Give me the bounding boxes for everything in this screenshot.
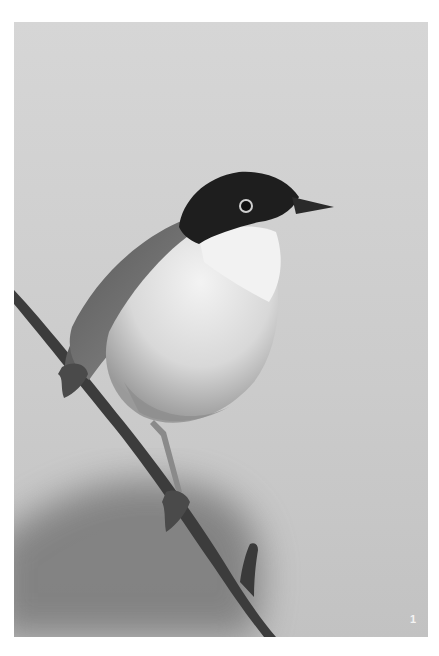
bird-illustration bbox=[14, 22, 428, 637]
bird-photograph: 1 bbox=[14, 22, 428, 637]
plate-number: 1 bbox=[410, 613, 416, 625]
bird-eye bbox=[241, 201, 251, 211]
